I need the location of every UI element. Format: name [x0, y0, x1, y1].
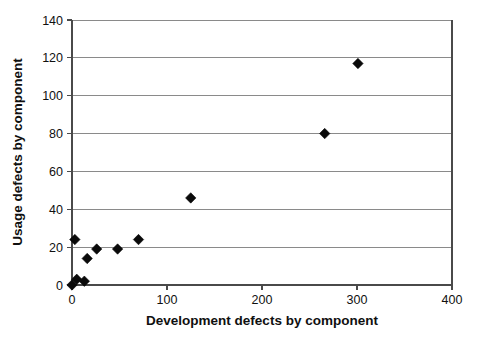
x-tick-label-100: 100 [157, 293, 178, 307]
y-tick-label-60: 60 [49, 165, 63, 179]
chart-canvas: 020406080100120140 0100200300400 Develop… [0, 0, 485, 343]
x-tick-label-300: 300 [347, 293, 368, 307]
x-tick-label-200: 200 [252, 293, 273, 307]
y-tick-label-140: 140 [42, 14, 63, 28]
y-tick-label-100: 100 [42, 89, 63, 103]
y-axis-title: Usage defects by component [10, 58, 25, 246]
scatter-chart-figure: 020406080100120140 0100200300400 Develop… [0, 0, 485, 343]
y-tick-label-120: 120 [42, 51, 63, 65]
x-tick-label-400: 400 [442, 293, 463, 307]
y-tick-label-40: 40 [49, 203, 63, 217]
y-tick-label-0: 0 [56, 279, 63, 293]
y-tick-label-80: 80 [49, 127, 63, 141]
y-tick-label-20: 20 [49, 241, 63, 255]
x-tick-label-0: 0 [69, 293, 76, 307]
x-axis-title: Development defects by component [146, 313, 378, 328]
